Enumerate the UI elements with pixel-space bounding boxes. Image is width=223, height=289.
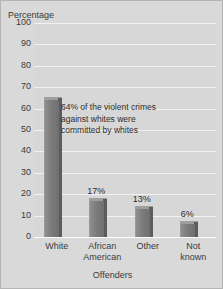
y-axis-tick-labels: 1009080706050403020100 [1, 23, 31, 238]
annotation-line: committed by whites [61, 125, 211, 137]
y-axis-tick-label: 80 [1, 60, 31, 70]
y-axis-tick-label: 30 [1, 167, 31, 177]
x-axis-line [34, 237, 216, 238]
x-axis-tick-label-line: American [68, 252, 136, 263]
x-axis-title: Offenders [1, 270, 223, 280]
x-axis-tick-label-line: known [159, 252, 223, 263]
x-axis-tick-label-line: Not [159, 241, 223, 252]
y-axis-tick-label: 90 [1, 38, 31, 48]
annotation-line: against whites were [61, 114, 211, 126]
y-axis-tick-label: 70 [1, 81, 31, 91]
y-axis-tick-label: 10 [1, 210, 31, 220]
bar-chart: Percentage 1009080706050403020100 17%13%… [0, 0, 223, 289]
bar: 13% [135, 209, 149, 237]
bar: 17% [89, 201, 103, 237]
bar-value-label: 6% [181, 209, 194, 219]
chart-annotation: 64% of the violent crimesagainst whites … [61, 102, 211, 137]
bar: 6% [180, 224, 194, 237]
y-axis-tick-label: 20 [1, 188, 31, 198]
gridline [34, 87, 216, 88]
bar-front-face [135, 209, 150, 237]
y-axis-tick-label: 60 [1, 103, 31, 113]
bar-front-face [44, 100, 59, 237]
gridline [34, 66, 216, 67]
annotation-line: 64% of the violent crimes [61, 102, 211, 114]
x-axis-tick-labels: WhiteAfricanAmericanOtherNotknown [34, 241, 216, 271]
bar-value-label: 17% [87, 186, 105, 196]
bar-value-label: 13% [133, 194, 151, 204]
y-axis-tick-label: 40 [1, 145, 31, 155]
bar [44, 100, 58, 237]
y-axis-tick-label: 50 [1, 124, 31, 134]
bar-front-face [89, 201, 104, 237]
gridline [34, 44, 216, 45]
gridline [34, 23, 216, 24]
x-axis-tick-label: Notknown [159, 241, 223, 263]
y-axis-tick-label: 100 [1, 17, 31, 27]
y-axis-tick-label: 0 [1, 231, 31, 241]
bar-front-face [180, 224, 195, 237]
